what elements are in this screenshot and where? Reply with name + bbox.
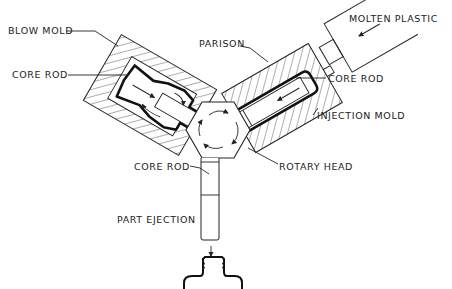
ejected-bottle [184, 257, 242, 289]
label-rotary-head: ROTARY HEAD [279, 161, 353, 172]
label-blow-mold: BLOW MOLD [8, 25, 73, 36]
leader-blow-mold [66, 31, 118, 46]
injector-nozzle-block [319, 39, 343, 64]
label-part-ejection: PART EJECTION [117, 214, 196, 225]
leader-rotary-head [248, 148, 278, 164]
injector-barrel [324, 0, 418, 72]
label-core-rod-right: CORE ROD [328, 73, 384, 84]
label-molten-plastic: MOLTEN PLASTIC [349, 13, 438, 24]
label-core-rod-bottom: CORE ROD [134, 161, 190, 172]
injection-blow-molding-diagram: BLOW MOLD CORE ROD PARISON MOLTEN PLASTI… [0, 0, 452, 289]
label-injection-mold: INJECTION MOLD [317, 110, 405, 121]
label-parison: PARISON [199, 38, 245, 49]
label-core-rod-left: CORE ROD [12, 69, 68, 80]
